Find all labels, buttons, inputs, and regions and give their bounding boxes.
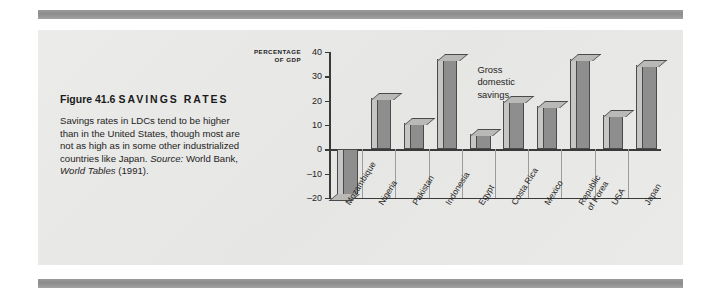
figure-description: Savings rates in LDCs tend to be higher … [60,115,242,178]
y-axis-tick-label: 20 [312,96,322,106]
y-axis-tick [325,125,329,126]
bar-top-face [603,110,634,117]
bar-top-face [636,60,667,67]
y-axis-tick [325,101,329,102]
figure-caption: Figure 41.6 SAVINGS RATES Savings rates … [60,92,242,178]
y-axis-tick-label: 10 [312,120,322,130]
bar-top-face [537,101,568,108]
bar [537,101,558,150]
chart-annotation-line: savings [477,89,515,101]
chart-annotation-line: Gross [477,64,515,76]
y-axis-tick [325,149,329,150]
page-rule-bottom [38,279,683,288]
source-label: Source: [150,153,183,164]
bar [470,129,491,150]
y-axis-tick-label: 40 [312,47,322,57]
figure-number: Figure 41.6 [60,93,115,105]
x-axis-labels: MozambiqueNigeriaPakistanIndonesiaEgyptC… [329,202,661,258]
y-axis-tick [325,52,329,53]
bar-front-face [543,106,558,150]
bar [636,60,657,149]
source-title: World Tables [60,165,116,176]
bar-front-face [443,59,458,149]
bar [437,54,458,149]
y-axis-tick-label: –20 [307,193,322,203]
y-axis-title: PERCENTAGE OF GDP [243,48,301,64]
bar-top-face [470,129,501,136]
bar-top-face [570,54,601,61]
bar-front-face [410,123,425,150]
y-axis-tick [325,198,329,199]
bar-front-face [609,115,624,149]
y-axis-tick [325,76,329,77]
figure-name: SAVINGS RATES [118,93,228,105]
category-separator [628,149,629,198]
y-axis-tick-label: –10 [307,169,322,179]
bar-top-face [437,54,468,61]
figure-panel: Figure 41.6 SAVINGS RATES Savings rates … [38,30,683,265]
bar [404,118,425,150]
figure-title: Figure 41.6 SAVINGS RATES [60,92,242,106]
source-year: (1991). [118,165,148,176]
bar-top-face [404,118,435,125]
bar-front-face [576,59,591,149]
bar [371,93,392,149]
bar [503,96,524,150]
y-axis-tick-label: 0 [317,144,322,154]
chart-annotation: Grossdomesticsavings [477,64,515,101]
y-axis-tick [325,174,329,175]
y-axis-line [329,52,331,198]
y-axis-title-line2: OF GDP [243,56,301,64]
bar-front-face [509,101,524,150]
category-separator [561,149,562,198]
bar-top-face [371,93,402,100]
y-axis-tick-label: 30 [312,71,322,81]
y-axis-title-line1: PERCENTAGE [243,48,301,56]
bar-front-face [642,65,657,149]
bar [570,54,591,149]
source-text: World Bank, [186,153,238,164]
bar-front-face [377,98,392,149]
category-separator [395,149,396,198]
page-rule-top [38,10,683,19]
chart-annotation-line: domestic [477,76,515,88]
bar [603,110,624,149]
savings-rates-chart: PERCENTAGE OF GDP 403020100–10–20 Grossd… [243,44,673,259]
